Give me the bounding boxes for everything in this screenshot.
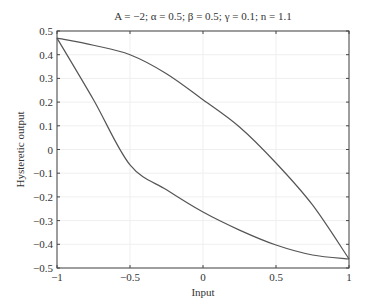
y-tick-label: −0.4 (33, 238, 53, 250)
grid (57, 31, 349, 268)
chart-title: A = −2; α = 0.5; β = 0.5; γ = 0.1; n = 1… (114, 10, 292, 22)
y-tick-label: 0.5 (39, 25, 53, 37)
y-tick-label: 0.2 (39, 96, 53, 108)
y-tick-label: 0.4 (39, 49, 53, 61)
x-tick-label: 0.5 (269, 271, 283, 283)
x-tick-label: −0.5 (120, 271, 140, 283)
y-tick-label: −0.3 (33, 215, 53, 227)
y-tick-label: 0.3 (39, 72, 53, 84)
chart: −1−0.500.51−0.5−0.4−0.3−0.2−0.100.10.20.… (0, 0, 368, 307)
y-axis-label: Hysteretic output (14, 111, 26, 187)
x-tick-label: 1 (346, 271, 352, 283)
x-axis-label: Input (191, 286, 214, 298)
y-tick-label: 0.1 (39, 120, 53, 132)
y-tick-label: −0.2 (33, 191, 53, 203)
x-tick-label: 0 (200, 271, 206, 283)
y-tick-label: −0.1 (33, 167, 53, 179)
y-tick-label: −0.5 (33, 262, 53, 274)
y-tick-label: 0 (48, 144, 54, 156)
